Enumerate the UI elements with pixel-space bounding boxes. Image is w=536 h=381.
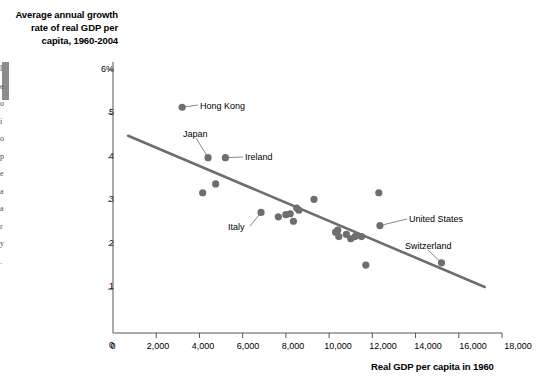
data-point	[199, 189, 206, 196]
data-point	[358, 233, 365, 240]
y-axis-ticks	[108, 70, 113, 289]
data-point	[222, 154, 229, 161]
data-point	[335, 233, 342, 240]
data-point	[204, 154, 211, 161]
data-point	[376, 222, 383, 229]
data-point	[290, 218, 297, 225]
data-point	[362, 261, 369, 268]
data-point	[375, 189, 382, 196]
data-points	[179, 104, 446, 269]
data-point	[287, 210, 294, 217]
data-point	[257, 209, 264, 216]
data-point	[212, 180, 219, 187]
data-point	[351, 233, 358, 240]
data-point	[295, 207, 302, 214]
data-point	[334, 226, 341, 233]
data-point	[179, 104, 186, 111]
data-point	[310, 196, 317, 203]
data-point	[438, 259, 445, 266]
trend-line	[128, 136, 485, 287]
annotation-leader-lines	[182, 105, 441, 263]
axis-lines	[113, 62, 502, 333]
data-point	[275, 213, 282, 220]
x-axis-ticks	[156, 333, 502, 338]
